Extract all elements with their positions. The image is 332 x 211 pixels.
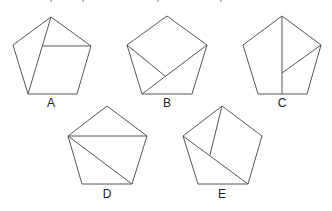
pentagon-label-c: C [278, 97, 287, 109]
division-line [142, 45, 207, 94]
division-line [183, 136, 248, 184]
pentagon-label-a: A [47, 97, 55, 109]
clipped-text-fragment [50, 0, 52, 2]
pentagon-c [243, 16, 321, 94]
pentagon-figure: A B C D E [0, 0, 332, 211]
pentagon-outline [13, 17, 91, 94]
pentagon-label-d: D [103, 188, 112, 200]
pentagon-e [183, 106, 262, 184]
division-line [282, 45, 321, 73]
clipped-text-fragment [157, 0, 159, 2]
division-line [127, 45, 165, 76]
pentagon-label-e: E [218, 188, 226, 200]
pentagon-d [68, 106, 147, 184]
clipped-text-fragment [220, 0, 222, 2]
pentagon-b [127, 16, 207, 94]
clipped-text-fragment [82, 0, 84, 2]
pentagon-label-b: B [163, 97, 171, 109]
division-line [68, 136, 132, 184]
pentagon-a [13, 17, 91, 94]
division-line [28, 17, 51, 94]
